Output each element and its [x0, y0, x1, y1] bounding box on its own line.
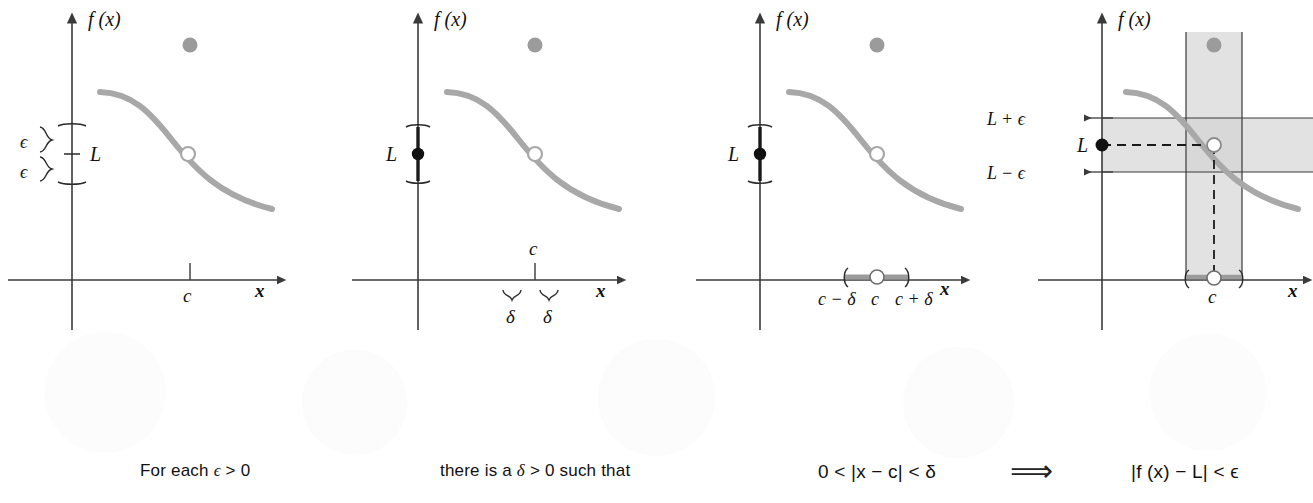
caption-inequality-f: |f (x) − L| < ϵ [1131, 461, 1239, 483]
caption-there-is-a-tail: > 0 such that [525, 461, 630, 480]
panel-1-y-axis-label: f (x) [88, 8, 121, 31]
panel-3-limit-point [754, 148, 766, 160]
panel-2-x-axis-label: x [595, 280, 606, 301]
panel-2-delta-left-label: δ [506, 306, 516, 327]
panel-1-group [8, 22, 278, 330]
panel-3-y-axis-label: f (x) [776, 8, 809, 31]
panel-4-l-plus-epsilon-label: L + ϵ [986, 109, 1026, 129]
panel-3-x-axis-label: x [939, 278, 950, 299]
panel-3-group [696, 22, 962, 330]
panel-4-ghost-point [1207, 38, 1222, 53]
panel-4-c-open-point [1207, 271, 1221, 285]
panel-2-limit-point [412, 148, 424, 160]
panel-1-removable-point [181, 147, 195, 161]
caption-there-is-a-delta: there is a δ > 0 such that [440, 461, 630, 481]
panel-2-c-label: c [529, 238, 538, 259]
caption-epsilon-symbol: ϵ [214, 461, 221, 480]
figure-canvas: f (x) x c ϵ ϵ L f (x) x c L δ δ f (x) x … [0, 0, 1313, 503]
panel-2-y-axis-label: f (x) [434, 8, 467, 31]
panel-4-x-axis-label: x [1287, 280, 1298, 301]
panel-4-group [1038, 22, 1313, 330]
panel-4-removable-point [1207, 138, 1221, 152]
panel-2-removable-point [528, 147, 542, 161]
panel-3-c-plus-delta-label: c + δ [895, 289, 933, 309]
panel-2-delta-right-brace [540, 290, 558, 300]
panel-3-c-open-point [870, 270, 884, 284]
panel-2-limit-label: L [385, 143, 397, 165]
implies-arrow-icon: ⟹ [1010, 456, 1053, 486]
panel-2-group [352, 22, 619, 330]
panel-1-lower-epsilon-label: ϵ [20, 162, 28, 182]
caption-for-each-tail: > 0 [221, 461, 251, 480]
panel-1-limit-label: L [89, 143, 101, 165]
panel-2-ghost-point [528, 38, 543, 53]
panel-4-y-axis-label: f (x) [1118, 8, 1151, 31]
panel-3-ghost-point [870, 38, 885, 53]
panel-2-delta-right-label: δ [543, 306, 553, 327]
caption-delta-symbol: δ [517, 461, 525, 480]
panel-4-limit-point [1096, 139, 1109, 152]
caption-inequality-x: 0 < |x − c| < δ [818, 461, 936, 483]
panel-4-limit-label: L [1076, 134, 1088, 156]
limit-definition-figure: f (x) x c ϵ ϵ L f (x) x c L δ δ f (x) x … [0, 0, 1313, 503]
panel-3-c-label: c [871, 289, 879, 309]
caption-there-is-a-text: there is a [440, 461, 517, 480]
caption-for-each-text: For each [140, 461, 214, 480]
panel-4-l-minus-epsilon-label: L − ϵ [986, 163, 1026, 183]
panel-1-lower-brace [40, 157, 52, 181]
caption-for-each-epsilon: For each ϵ > 0 [140, 461, 250, 481]
panel-1-x-axis-label: x [254, 280, 265, 301]
panel-3-removable-point [870, 147, 884, 161]
panel-4-c-label: c [1208, 286, 1217, 307]
panel-2-delta-left-brace [503, 290, 521, 300]
panel-1-upper-brace [40, 127, 52, 152]
panel-3-limit-label: L [727, 143, 739, 165]
panel-3-c-minus-delta-label: c − δ [818, 289, 856, 309]
panel-1-c-label: c [183, 285, 192, 306]
panel-1-upper-epsilon-label: ϵ [20, 132, 28, 152]
panel-1-ghost-point [183, 38, 198, 53]
